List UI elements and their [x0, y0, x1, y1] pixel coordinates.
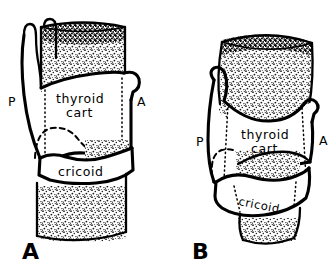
label-thyroid-cart-a-line2: cart: [66, 105, 93, 120]
label-thyroid-cart-b-line1: thyroid: [241, 127, 289, 142]
label-thyroid-cart-b-line2: cart: [251, 141, 278, 156]
label-anterior-a: A: [137, 94, 146, 109]
label-posterior-a: P: [8, 94, 16, 109]
figure-root: P A thyroid cart cricoid A: [0, 0, 332, 270]
panel-letter-b: B: [192, 239, 209, 264]
larynx-diagram-svg: P A thyroid cart cricoid A: [0, 0, 332, 270]
label-cricoid-a: cricoid: [58, 164, 104, 179]
panel-letter-a: A: [22, 239, 39, 264]
label-thyroid-cart-a-line1: thyroid: [56, 91, 104, 106]
label-anterior-b: A: [319, 133, 328, 148]
label-posterior-b: P: [196, 134, 204, 149]
